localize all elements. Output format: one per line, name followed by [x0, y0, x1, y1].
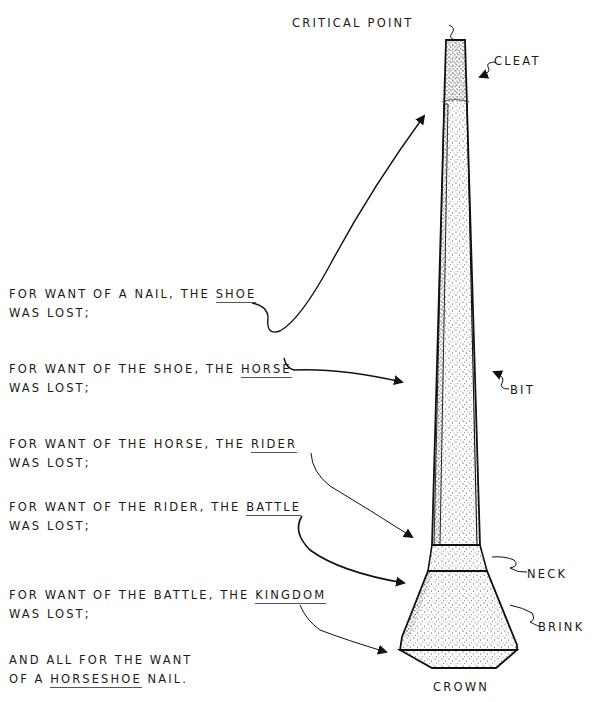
stanza-text: AND ALL FOR THE WANT: [9, 651, 192, 670]
stanza-kingdom: FOR WANT OF THE BATTLE, THE KINGDOM WAS …: [9, 586, 326, 624]
keyword-horse: HORSE: [241, 362, 292, 378]
label-bit: BIT: [510, 381, 535, 400]
stanza-horse: FOR WANT OF THE SHOE, THE HORSE WAS LOST…: [9, 360, 292, 398]
stanza-text: WAS LOST;: [9, 605, 326, 624]
keyword-horseshoe: HORSESHOE: [50, 672, 141, 688]
neck-leader: [492, 557, 527, 572]
stanza-shoe: FOR WANT OF A NAIL, THE SHOE WAS LOST;: [9, 285, 256, 323]
rider-arrow: [311, 453, 412, 537]
horse-arrow: [284, 358, 402, 382]
label-brink: BRINK: [538, 618, 584, 637]
nail-crown: [400, 650, 517, 668]
stanza-text: FOR WANT OF THE SHOE, THE: [9, 362, 241, 376]
stanza-text: FOR WANT OF THE BATTLE, THE: [9, 588, 255, 602]
nail-neck: [428, 545, 487, 571]
stanza-text: NAIL.: [142, 672, 188, 686]
brink-leader: [510, 605, 541, 627]
stanza-closing: AND ALL FOR THE WANT OF A HORSESHOE NAIL…: [9, 651, 192, 689]
stanza-text: FOR WANT OF THE RIDER, THE: [9, 500, 246, 514]
critical-point-leader: [449, 25, 455, 40]
stanza-text: FOR WANT OF THE HORSE, THE: [9, 437, 251, 451]
battle-arrow: [298, 516, 404, 583]
stanza-text: WAS LOST;: [9, 454, 297, 473]
stanza-text: OF A: [9, 672, 50, 686]
keyword-kingdom: KINGDOM: [255, 588, 326, 604]
stanza-text: WAS LOST;: [9, 517, 301, 536]
nail-shank: [432, 40, 480, 545]
shoe-arrow: [252, 116, 424, 332]
label-cleat: CLEAT: [494, 52, 541, 71]
nail-head: [400, 571, 517, 650]
keyword-rider: RIDER: [251, 437, 297, 453]
keyword-battle: BATTLE: [246, 500, 301, 516]
stanza-text: FOR WANT OF A NAIL, THE: [9, 287, 216, 301]
bit-leader: [494, 372, 509, 389]
stanza-text: WAS LOST;: [9, 304, 256, 323]
keyword-shoe: SHOE: [216, 287, 257, 303]
stanza-rider: FOR WANT OF THE HORSE, THE RIDER WAS LOS…: [9, 435, 297, 473]
label-crown: CROWN: [433, 678, 489, 697]
stanza-battle: FOR WANT OF THE RIDER, THE BATTLE WAS LO…: [9, 498, 301, 536]
stanza-text: WAS LOST;: [9, 379, 292, 398]
label-neck: NECK: [527, 565, 567, 584]
label-critical-point: CRITICAL POINT: [292, 14, 414, 33]
